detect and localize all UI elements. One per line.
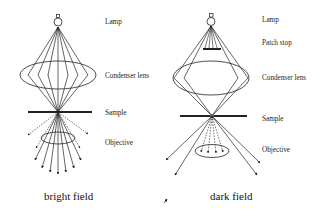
- caption-bright-field: bright field: [44, 190, 94, 202]
- label-lamp-bright: Lamp: [105, 18, 122, 26]
- blocked-rays: [205, 26, 217, 48]
- caption-dark-field: dark field: [210, 190, 253, 202]
- stray-arrow-mark: [164, 199, 167, 203]
- bright-field-panel: [20, 15, 96, 175]
- lamp-icon: [54, 15, 62, 27]
- label-objective-dark: Objective: [262, 146, 290, 154]
- label-condenser-bright: Condenser lens: [105, 72, 149, 80]
- label-sample-bright: Sample: [105, 109, 127, 117]
- scattered-rays: [201, 116, 223, 153]
- label-objective-bright: Objective: [105, 139, 133, 147]
- hollow-cone-rays: [174, 26, 248, 116]
- lamp-icon: [207, 14, 215, 26]
- transmitted-rays: [35, 112, 81, 174]
- illumination-rays: [28, 27, 88, 112]
- label-sample-dark: Sample: [262, 115, 284, 123]
- dark-field-panel: [166, 14, 260, 176]
- label-lamp-dark: Lamp: [262, 16, 279, 24]
- label-patch-stop-dark: Patch stop: [262, 39, 292, 47]
- label-condenser-dark: Condenser lens: [262, 74, 306, 82]
- microscopy-diagram: Lamp Condenser lens Sample Objective bri…: [0, 0, 324, 210]
- objective-lens: [195, 145, 229, 158]
